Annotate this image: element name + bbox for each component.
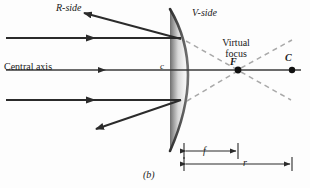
radius-dimension: [184, 157, 292, 171]
convex-mirror-figure: R-side V-side Virtual focus Central axis…: [0, 0, 310, 188]
r-side-label: R-side: [56, 3, 82, 14]
center-of-curvature-dot: [289, 67, 295, 73]
center-of-curvature-label: C: [285, 53, 292, 64]
mirror-vertex-label: c: [160, 62, 164, 71]
incident-ray-lower-arrowhead: [86, 97, 96, 104]
convex-mirror: [170, 9, 188, 151]
v-side-label: V-side: [192, 8, 217, 19]
focal-point-dot: [235, 67, 242, 74]
reflected-ray-upper: [84, 13, 181, 39]
dashed-beyond-focus-lower-right: [241, 72, 291, 100]
incident-ray-upper-arrowhead: [86, 35, 96, 42]
dashed-lower-to-focus: [187, 72, 236, 101]
panel-label: (b): [143, 170, 155, 181]
radius-label: r: [243, 158, 247, 169]
diagram-canvas: [0, 0, 310, 188]
r-side-symbol: R-side: [56, 2, 82, 13]
central-axis-arrowhead: [98, 67, 106, 73]
reflected-ray-lower: [96, 100, 181, 129]
focal-point-label: F: [230, 57, 237, 68]
central-axis-label: Central axis: [4, 62, 52, 73]
virtual-focus-line-1: Virtual: [212, 38, 260, 49]
focal-length-dimension: [184, 143, 238, 159]
focal-length-label: f: [203, 146, 206, 157]
